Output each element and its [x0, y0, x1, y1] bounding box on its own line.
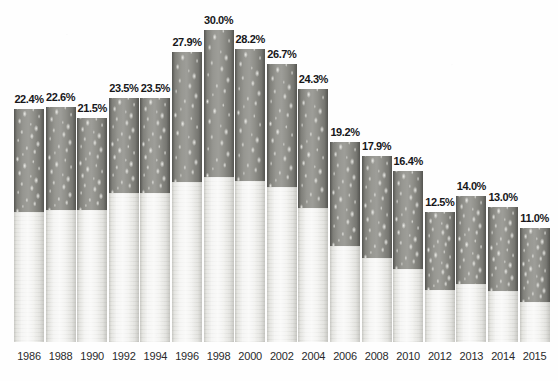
bar-value-label: 17.9% — [362, 141, 391, 152]
x-axis-tick-label: 1988 — [46, 351, 76, 362]
cigarette-tobacco-segment — [140, 98, 170, 193]
cigarette-filter-segment — [46, 210, 76, 342]
cigarette-filter-segment — [77, 210, 107, 342]
cigarette-tobacco-segment — [77, 118, 107, 210]
cigarette-tobacco-segment — [393, 171, 423, 268]
x-axis: 1986198819901992199419961998200020022004… — [0, 342, 558, 381]
cigarette-filter-segment — [330, 246, 360, 342]
cigarette-filter-segment — [298, 208, 328, 342]
cigarette-tobacco-segment — [298, 89, 328, 208]
x-axis-tick-label: 1992 — [109, 351, 139, 362]
cigarette-tobacco-segment — [456, 196, 486, 283]
cigarette-bar — [425, 212, 455, 342]
cigarette-bar — [488, 207, 518, 342]
x-axis-tick-label: 2004 — [298, 351, 328, 362]
bar-value-label: 12.5% — [425, 197, 454, 208]
cigarette-filter-segment — [393, 269, 423, 342]
cigarette-bar-chart: 22.4%22.6%21.5%23.5%23.5%27.9%30.0%28.2%… — [0, 0, 558, 381]
cigarette-bar — [298, 89, 328, 342]
cigarette-tobacco-segment — [330, 142, 360, 246]
bar-value-label: 11.0% — [520, 213, 549, 224]
cigarette-filter-segment — [204, 177, 234, 342]
x-axis-tick-label: 2012 — [425, 351, 455, 362]
bar-value-label: 16.4% — [394, 156, 423, 167]
bar-value-label: 26.7% — [267, 49, 296, 60]
bar-value-label: 21.5% — [78, 103, 107, 114]
cigarette-bar — [520, 228, 550, 342]
x-axis-tick-label: 2015 — [520, 351, 550, 362]
plot-area: 22.4%22.6%21.5%23.5%23.5%27.9%30.0%28.2%… — [0, 0, 558, 342]
cigarette-tobacco-segment — [520, 228, 550, 302]
cigarette-tobacco-segment — [362, 156, 392, 258]
x-axis-tick-label: 2002 — [267, 351, 297, 362]
bar-value-label: 19.2% — [330, 127, 359, 138]
cigarette-tobacco-segment — [46, 107, 76, 210]
x-axis-tick-label: 1994 — [140, 351, 170, 362]
bar-value-label: 27.9% — [172, 37, 201, 48]
x-axis-tick-label: 1998 — [204, 351, 234, 362]
cigarette-filter-segment — [362, 258, 392, 342]
bar-value-label: 14.0% — [457, 181, 486, 192]
cigarette-tobacco-segment — [14, 109, 44, 212]
cigarette-bar — [235, 49, 265, 342]
bar-value-label: 13.0% — [488, 192, 517, 203]
cigarette-bar — [330, 142, 360, 342]
cigarette-tobacco-segment — [425, 212, 455, 290]
cigarette-tobacco-segment — [172, 52, 202, 183]
bar-value-label: 22.4% — [14, 94, 43, 105]
cigarette-filter-segment — [520, 302, 550, 342]
x-axis-tick-label: 2014 — [488, 351, 518, 362]
cigarette-bar — [109, 98, 139, 342]
cigarette-filter-segment — [488, 291, 518, 342]
cigarette-filter-segment — [14, 212, 44, 342]
cigarette-bar — [46, 107, 76, 342]
bar-value-label: 30.0% — [204, 15, 233, 26]
x-axis-tick-label: 2000 — [235, 351, 265, 362]
cigarette-tobacco-segment — [204, 30, 234, 177]
bar-value-label: 23.5% — [109, 83, 138, 94]
cigarette-filter-segment — [456, 284, 486, 342]
x-axis-tick-label: 1986 — [14, 351, 44, 362]
cigarette-bar — [204, 30, 234, 342]
cigarette-bar — [456, 196, 486, 342]
cigarette-bar — [140, 98, 170, 342]
cigarette-bar — [172, 52, 202, 342]
cigarette-filter-segment — [172, 182, 202, 342]
x-axis-tick-label: 2006 — [330, 351, 360, 362]
cigarette-tobacco-segment — [267, 64, 297, 186]
bar-value-label: 24.3% — [299, 74, 328, 85]
cigarette-bar — [77, 118, 107, 342]
x-axis-tick-label: 1990 — [77, 351, 107, 362]
cigarette-bar — [14, 109, 44, 342]
bar-value-label: 28.2% — [236, 34, 265, 45]
bar-value-label: 23.5% — [141, 83, 170, 94]
cigarette-filter-segment — [267, 187, 297, 343]
cigarette-filter-segment — [109, 193, 139, 342]
x-axis-tick-label: 2010 — [393, 351, 423, 362]
bar-value-label: 22.6% — [46, 92, 75, 103]
cigarette-bar — [393, 171, 423, 342]
x-axis-tick-label: 1996 — [172, 351, 202, 362]
cigarette-tobacco-segment — [235, 49, 265, 181]
x-axis-tick-label: 2008 — [362, 351, 392, 362]
cigarette-tobacco-segment — [488, 207, 518, 291]
cigarette-filter-segment — [425, 290, 455, 342]
cigarette-bar — [267, 64, 297, 342]
cigarette-filter-segment — [140, 193, 170, 342]
cigarette-tobacco-segment — [109, 98, 139, 193]
x-axis-tick-label: 2013 — [456, 351, 486, 362]
cigarette-bar — [362, 156, 392, 342]
cigarette-filter-segment — [235, 181, 265, 342]
